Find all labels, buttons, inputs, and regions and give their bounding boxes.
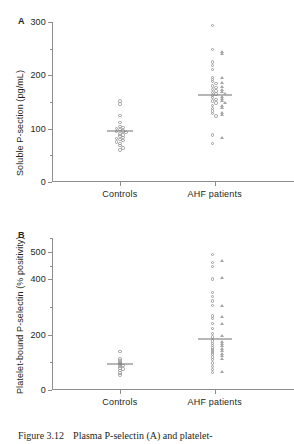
panel-a-x-tick-label: Controls (102, 189, 137, 199)
panel-a-y-minor-tick (50, 155, 53, 156)
panel-b-y-tick (48, 252, 52, 253)
data-point (211, 24, 214, 27)
panel-b-x-tick-label: AHF patients (188, 397, 242, 407)
data-point (211, 317, 214, 320)
data-point (220, 370, 224, 373)
data-point (220, 76, 224, 79)
panel-b-y-tick-label: 500 (30, 247, 46, 257)
panel-b-y-tick (48, 335, 52, 336)
data-point (118, 114, 121, 117)
panel-a-y-tick (48, 22, 52, 23)
panel-a-y-tick (48, 129, 52, 130)
figure-container: A Soluble P-section (pg/mL) 3002001000Co… (0, 0, 294, 444)
data-point (214, 101, 217, 104)
data-point (211, 48, 214, 51)
mean-line (107, 130, 133, 131)
panel-b-y-minor-tick (50, 266, 53, 267)
figure-caption-number: Figure 3.12 (18, 430, 64, 441)
data-point (118, 121, 121, 124)
data-point (211, 133, 214, 136)
figure-caption-text: Plasma P-selectin (A) and platelet- (73, 430, 212, 441)
panel-a-x-axis (52, 181, 294, 182)
panel-a-letter: A (18, 16, 25, 26)
mean-line (198, 338, 232, 339)
panel-a-x-tick (215, 182, 216, 186)
panel-b-y-tick-label: 400 (30, 274, 46, 284)
data-point (220, 81, 224, 84)
data-point (121, 139, 124, 142)
panel-b-y-tick-label: 200 (30, 330, 46, 340)
data-point (211, 277, 214, 280)
data-point (211, 327, 214, 330)
data-point (211, 253, 214, 256)
data-point (211, 295, 214, 298)
panel-a-y-tick-label: 200 (30, 70, 46, 80)
panel-a-y-tick-label: 300 (30, 17, 46, 27)
data-point (220, 52, 224, 55)
panel-a-y-minor-tick (50, 49, 53, 50)
data-point (211, 304, 214, 307)
panel-a-y-tick-label: 100 (30, 124, 46, 134)
panel-b-y-minor-tick (50, 362, 53, 363)
panel-b-plot-area: 5004002000ControlsAHF patients (52, 238, 278, 390)
mean-line (107, 363, 133, 364)
data-point (211, 142, 214, 145)
data-point (220, 304, 224, 307)
data-point (220, 322, 224, 325)
panel-b-y-tick (48, 279, 52, 280)
data-point (211, 64, 214, 67)
panel-a: A Soluble P-section (pg/mL) 3002001000Co… (0, 0, 294, 218)
panel-b-x-tick-label: Controls (102, 397, 137, 407)
data-point (118, 350, 121, 353)
data-point (118, 102, 121, 105)
data-point (211, 299, 214, 302)
panel-a-plot-area: 3002001000ControlsAHF patients (52, 22, 278, 182)
panel-b-x-tick (215, 390, 216, 394)
data-point (214, 114, 217, 117)
panel-b-y-tick-label: 0 (41, 385, 46, 395)
data-point (214, 82, 217, 85)
data-point (220, 276, 224, 279)
panel-a-x-tick (120, 182, 121, 186)
panel-b-x-tick (120, 390, 121, 394)
data-point (220, 315, 224, 318)
panel-a-y-tick (48, 182, 52, 183)
data-point (211, 371, 214, 374)
data-point (211, 68, 214, 71)
panel-b-y-minor-tick (50, 238, 53, 239)
panel-a-y-minor-tick (50, 102, 53, 103)
panel-b-y-axis-label: Platelet-bound P-selectin (% positivity) (15, 236, 25, 394)
data-point (211, 261, 214, 264)
figure-caption: Figure 3.12Plasma P-selectin (A) and pla… (18, 430, 288, 443)
panel-a-y-tick-label: 0 (41, 177, 46, 187)
data-point (211, 322, 214, 325)
panel-b-y-tick (48, 390, 52, 391)
panel-b: B Platelet-bound P-selectin (% positivit… (0, 218, 294, 426)
data-point (121, 367, 124, 370)
panel-a-x-tick-label: AHF patients (188, 189, 242, 199)
data-point (220, 357, 224, 360)
data-point (220, 259, 224, 262)
panel-b-y-axis (52, 238, 53, 390)
panel-b-x-axis (52, 389, 294, 390)
data-point (220, 136, 224, 139)
panel-a-y-axis (52, 22, 53, 182)
panel-b-y-minor-tick (50, 307, 53, 308)
data-point (220, 334, 224, 337)
data-point (211, 265, 214, 268)
data-point (118, 148, 121, 151)
panel-a-y-axis-label: Soluble P-section (pg/mL) (15, 70, 25, 176)
panel-a-y-tick (48, 75, 52, 76)
data-point (220, 113, 224, 116)
data-point (118, 373, 121, 376)
data-point (121, 146, 124, 149)
data-point (220, 106, 224, 109)
data-point (211, 291, 214, 294)
